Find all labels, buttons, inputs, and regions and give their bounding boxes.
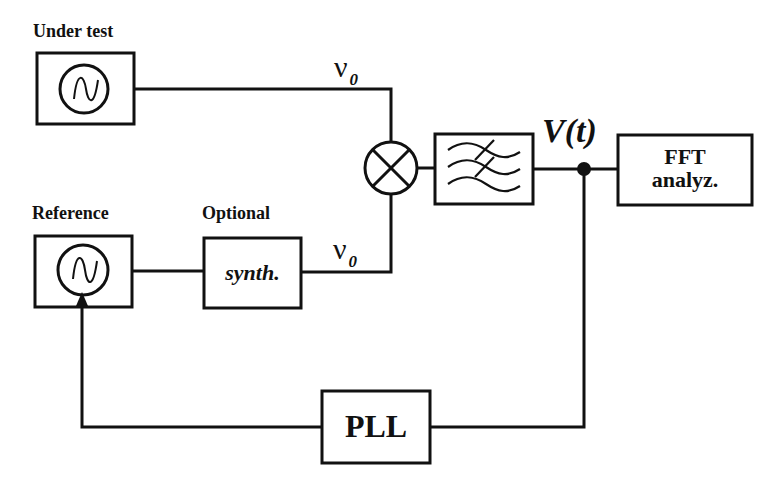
nu-subscript: 0 — [349, 252, 358, 271]
sine-wave-icon — [74, 78, 98, 100]
nu-subscript: 0 — [350, 70, 359, 89]
wire-under-test-to-mixer — [134, 89, 391, 141]
junction-dot — [577, 162, 591, 176]
signal-vt-label: V(t) — [542, 114, 597, 148]
fft-line1: FFT — [618, 145, 752, 168]
label-under-test: Under test — [33, 22, 113, 40]
fft-line2: analyz. — [618, 168, 752, 191]
pll-label: PLL — [322, 410, 430, 444]
lowpass-filter-icon — [448, 140, 520, 191]
label-optional: Optional — [202, 204, 270, 222]
nu-symbol: ν — [333, 232, 347, 265]
wire-vt-to-pll — [430, 169, 584, 427]
signal-nu-bottom: ν0 — [333, 234, 355, 264]
nu-symbol: ν — [334, 50, 348, 83]
synthesizer-label: synth. — [204, 261, 301, 284]
block-diagram: Under test Reference Optional ν0 ν0 V(t)… — [0, 0, 782, 487]
sine-source-icon-reference — [58, 245, 108, 295]
label-reference: Reference — [32, 204, 109, 222]
sine-wave-icon-reference — [73, 258, 97, 282]
fft-analyzer-label: FFT analyz. — [618, 145, 752, 191]
wire-pll-to-reference — [82, 302, 322, 427]
sine-source-icon — [60, 65, 108, 113]
signal-nu-top: ν0 — [334, 52, 356, 82]
